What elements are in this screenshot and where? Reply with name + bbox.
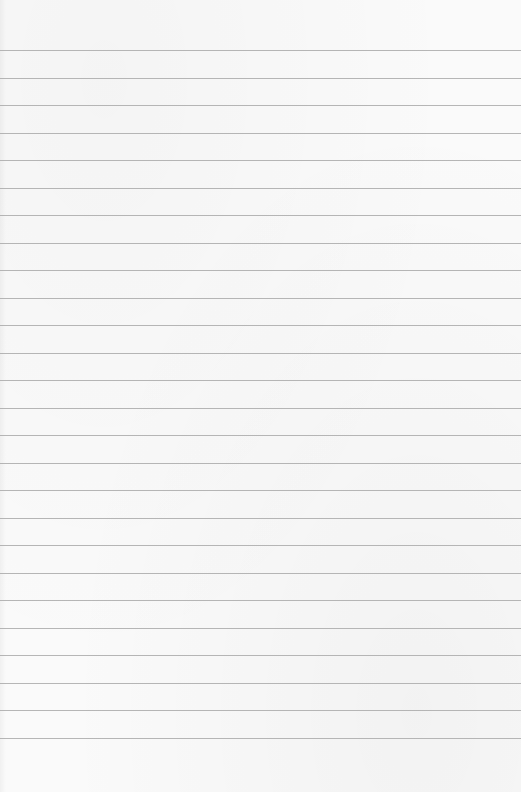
ruled-line <box>0 490 521 491</box>
ruled-line <box>0 160 521 161</box>
ruled-line <box>0 463 521 464</box>
ruled-line <box>0 353 521 354</box>
ruled-line <box>0 298 521 299</box>
ruled-line <box>0 105 521 106</box>
lined-paper-sheet <box>0 0 521 792</box>
ruled-line <box>0 270 521 271</box>
ruled-line <box>0 710 521 711</box>
ruled-line <box>0 243 521 244</box>
ruled-line <box>0 628 521 629</box>
ruled-line <box>0 215 521 216</box>
ruled-line <box>0 50 521 51</box>
ruled-line <box>0 518 521 519</box>
ruled-line <box>0 600 521 601</box>
ruled-line <box>0 408 521 409</box>
ruled-line <box>0 188 521 189</box>
ruled-line <box>0 683 521 684</box>
ruled-line <box>0 738 521 739</box>
ruled-line <box>0 435 521 436</box>
ruled-line <box>0 380 521 381</box>
ruled-line <box>0 655 521 656</box>
ruled-line <box>0 325 521 326</box>
ruled-line <box>0 573 521 574</box>
ruled-line <box>0 78 521 79</box>
ruled-line <box>0 133 521 134</box>
ruled-line <box>0 545 521 546</box>
